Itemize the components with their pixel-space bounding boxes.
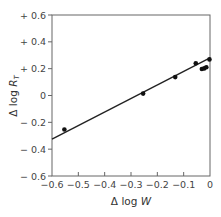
y-tick-label: + 0.4 [20, 36, 46, 47]
regression-line [52, 58, 210, 139]
y-axis-label: Δ log RT [7, 75, 21, 117]
data-point [193, 61, 198, 66]
y-tick-label: 0 [40, 90, 46, 101]
data-point [207, 57, 212, 62]
y-tick-label: − 0.2 [20, 117, 46, 128]
x-tick-label: −0.1 [172, 179, 195, 190]
data-point [141, 91, 146, 96]
y-tick-label: + 0.2 [20, 63, 46, 74]
x-tick-label: 0 [207, 179, 213, 190]
x-tick-label: −0.2 [146, 179, 169, 190]
plot-frame [52, 15, 210, 176]
x-tick-label: −0.3 [119, 179, 142, 190]
y-tick-label: + 0.6 [20, 10, 46, 21]
x-axis-label: Δ log W [111, 195, 152, 207]
y-tick-label: − 0.6 [20, 171, 46, 182]
y-axis-ticks: + 0.6+ 0.4+ 0.20− 0.2− 0.4− 0.6 [20, 10, 52, 182]
x-tick-label: −0.4 [93, 179, 116, 190]
scatter-chart: −0.6−0.5−0.4−0.3−0.2−0.10 + 0.6+ 0.4+ 0.… [0, 0, 221, 217]
x-tick-label: −0.5 [67, 179, 90, 190]
y-tick-label: − 0.4 [20, 144, 46, 155]
x-axis-ticks: −0.6−0.5−0.4−0.3−0.2−0.10 [40, 172, 213, 190]
data-point [204, 65, 209, 70]
data-point [62, 127, 67, 132]
data-point [173, 75, 178, 80]
